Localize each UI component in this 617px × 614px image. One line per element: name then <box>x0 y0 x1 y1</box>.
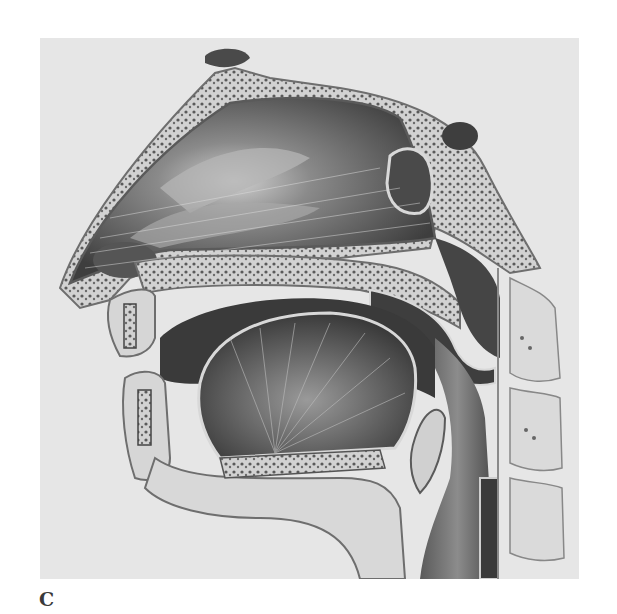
upper-incisor-bone <box>124 304 136 348</box>
figure-caption-label: C <box>39 588 54 610</box>
sphenoid-sinus-small <box>442 122 478 150</box>
frontal-sinus <box>205 49 250 67</box>
sagittal-head-illustration <box>40 38 579 579</box>
cervical-spine <box>510 278 564 560</box>
sphenoid-sinus-large <box>387 149 432 214</box>
illustration-panel <box>40 38 579 579</box>
epiglottis <box>411 410 445 493</box>
mandible-incisor-bone <box>138 390 151 445</box>
mandible <box>145 458 405 579</box>
esophagus <box>480 478 498 579</box>
